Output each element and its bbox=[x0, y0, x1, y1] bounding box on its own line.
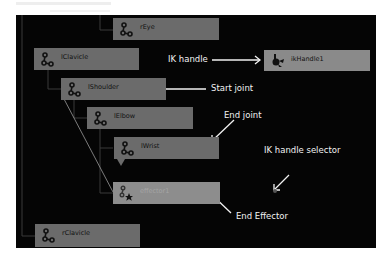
joint-icon bbox=[40, 227, 56, 243]
node-label: rEye bbox=[140, 23, 155, 31]
node-editor-canvas[interactable]: rEye lClavicle lShoulder lElbow lWrist e… bbox=[16, 15, 376, 248]
joint-icon bbox=[39, 51, 55, 67]
output-notch bbox=[117, 159, 125, 166]
node-lWrist[interactable]: lWrist bbox=[114, 137, 219, 159]
node-effector1[interactable]: effector1 bbox=[113, 182, 220, 204]
node-label: lElbow bbox=[114, 112, 135, 120]
node-label: rClavicle bbox=[62, 229, 90, 237]
ik-handle-selector-icon[interactable] bbox=[272, 188, 278, 194]
effector-icon bbox=[118, 185, 134, 201]
node-lElbow[interactable]: lElbow bbox=[87, 107, 193, 129]
joint-icon bbox=[66, 81, 82, 97]
joint-icon bbox=[119, 140, 135, 156]
node-lShoulder[interactable]: lShoulder bbox=[61, 78, 166, 100]
node-ikHandle1[interactable]: ikHandle1 bbox=[264, 50, 370, 71]
annotation-ik-handle-selector: IK handle selector bbox=[264, 145, 340, 155]
node-label: lWrist bbox=[141, 142, 159, 150]
cropped-caption-line bbox=[50, 10, 110, 12]
cropped-caption-line bbox=[16, 2, 111, 5]
node-lClavicle[interactable]: lClavicle bbox=[34, 48, 139, 70]
annotation-start-joint: Start joint bbox=[211, 83, 253, 93]
node-label: ikHandle1 bbox=[291, 55, 324, 63]
node-label: lShoulder bbox=[88, 83, 119, 91]
node-rEye[interactable]: rEye bbox=[113, 18, 219, 40]
node-label: lClavicle bbox=[61, 53, 88, 61]
ik-handle-icon bbox=[269, 52, 285, 68]
annotation-ik-handle: IK handle bbox=[168, 54, 208, 64]
annotation-end-effector: End Effector bbox=[236, 211, 288, 221]
annotation-end-joint: End joint bbox=[224, 110, 262, 120]
joint-icon bbox=[92, 110, 108, 126]
node-label: effector1 bbox=[140, 187, 169, 195]
node-rClavicle[interactable]: rClavicle bbox=[35, 224, 140, 247]
joint-icon bbox=[118, 21, 134, 37]
